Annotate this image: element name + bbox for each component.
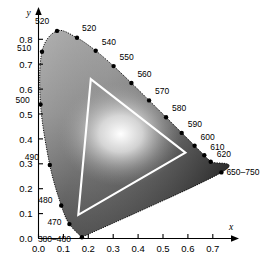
x-tick-label: 0.3 — [107, 243, 120, 254]
y-tick-label: 0.6 — [19, 84, 32, 95]
wavelength-dot-620 — [209, 160, 213, 164]
x-tick-label: 0.7 — [206, 243, 219, 254]
wavelength-dot-490 — [48, 163, 52, 167]
wavelength-label-620: 620 — [217, 149, 231, 159]
y-tick-label: 0.5 — [19, 109, 32, 120]
wavelength-label-560: 560 — [137, 69, 151, 79]
x-axis-title: x — [228, 222, 234, 232]
wavelength-label-600: 600 — [201, 132, 215, 142]
wavelength-dot-520 — [75, 36, 79, 40]
wavelength-dot-510 — [40, 50, 44, 54]
wavelength-dot-610 — [202, 153, 206, 157]
wavelength-label-520: 520 — [82, 23, 96, 33]
wavelength-label-550: 550 — [120, 52, 134, 62]
y-axis-arrowhead — [35, 7, 41, 15]
wavelength-label-490: 490 — [25, 152, 39, 162]
wavelength-dot-570 — [147, 98, 151, 102]
wavelength-label-540: 540 — [102, 37, 116, 47]
diagram-vectors: 0.00.10.20.30.40.50.60.70.00.10.20.30.40… — [0, 0, 261, 271]
wavelength-label-510: 510 — [17, 43, 31, 53]
wavelength-dot-600 — [192, 144, 196, 148]
wavelength-dot-520 — [55, 29, 59, 33]
y-tick-label: 0.0 — [19, 233, 32, 244]
chart-labels: 380–480470480490500510520520540550560570… — [16, 16, 260, 244]
wavelength-dot-550 — [111, 64, 115, 68]
y-axis-title: y — [25, 8, 31, 18]
y-tick-label: 0.4 — [19, 134, 32, 145]
x-tick-label: 0.5 — [156, 243, 169, 254]
cie-chromaticity-diagram: 0.00.10.20.30.40.50.60.70.00.10.20.30.40… — [0, 0, 261, 271]
wavelength-dot-650-750 — [219, 170, 223, 174]
y-tick-label: 0.7 — [19, 59, 32, 70]
wavelength-label-520: 520 — [35, 16, 49, 26]
wavelength-label-650-750: 650–750 — [226, 167, 259, 177]
x-tick-label: 0.4 — [131, 243, 144, 254]
wavelength-dot-560 — [129, 81, 133, 85]
wavelength-label-580: 580 — [172, 103, 186, 113]
wavelength-dot-540 — [94, 49, 98, 53]
wavelength-dot-470 — [67, 222, 71, 226]
wavelength-dot-480 — [59, 203, 63, 207]
wavelength-label-500: 500 — [16, 95, 30, 105]
x-tick-label: 0.2 — [82, 243, 95, 254]
y-tick-label: 0.1 — [19, 208, 32, 219]
wavelength-label-590: 590 — [188, 119, 202, 129]
wavelength-label-570: 570 — [155, 86, 169, 96]
wavelength-dot-580 — [164, 115, 168, 119]
wavelength-dot-590 — [180, 131, 184, 135]
x-tick-label: 0.6 — [181, 243, 194, 254]
rgb-gamut-triangle — [78, 79, 185, 215]
wavelength-label-470: 470 — [47, 217, 61, 227]
wavelength-label-480: 480 — [38, 195, 52, 205]
wavelength-label-380-480: 380–480 — [38, 234, 71, 244]
x-axis-arrowhead — [231, 235, 239, 241]
y-tick-label: 0.2 — [19, 183, 32, 194]
